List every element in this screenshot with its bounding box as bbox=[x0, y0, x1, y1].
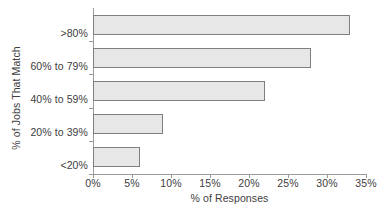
x-tick-label: 15% bbox=[199, 177, 220, 189]
y-tick-label: <20% bbox=[14, 159, 88, 171]
y-tick-label: >80% bbox=[14, 27, 88, 39]
y-tick-mark bbox=[89, 141, 93, 142]
y-axis-tick-labels: <20%20% to 39%40% to 59%60% to 79%>80% bbox=[14, 8, 88, 174]
bar bbox=[93, 114, 163, 134]
y-tick-mark bbox=[89, 74, 93, 75]
bar bbox=[93, 15, 350, 35]
x-tick-label: 5% bbox=[124, 177, 139, 189]
x-axis-tick-labels: 0%5%10%15%20%25%30%35% bbox=[93, 177, 366, 191]
clipped-caption bbox=[0, 208, 375, 215]
y-tick-label: 40% to 59% bbox=[14, 93, 88, 105]
y-tick-label: 60% to 79% bbox=[14, 60, 88, 72]
bar bbox=[93, 48, 311, 68]
x-axis-title: % of Responses bbox=[93, 192, 366, 204]
bar bbox=[93, 147, 140, 167]
x-axis-line bbox=[93, 174, 366, 175]
x-tick-label: 20% bbox=[238, 177, 259, 189]
x-tick-label: 0% bbox=[85, 177, 100, 189]
x-tick-label: 30% bbox=[316, 177, 337, 189]
y-tick-label: 20% to 39% bbox=[14, 126, 88, 138]
bar bbox=[93, 81, 265, 101]
plot-area bbox=[93, 8, 366, 174]
x-tick-label: 10% bbox=[160, 177, 181, 189]
y-tick-mark bbox=[89, 41, 93, 42]
x-tick-label: 35% bbox=[355, 177, 376, 189]
y-tick-mark bbox=[89, 108, 93, 109]
x-tick-label: 25% bbox=[277, 177, 298, 189]
